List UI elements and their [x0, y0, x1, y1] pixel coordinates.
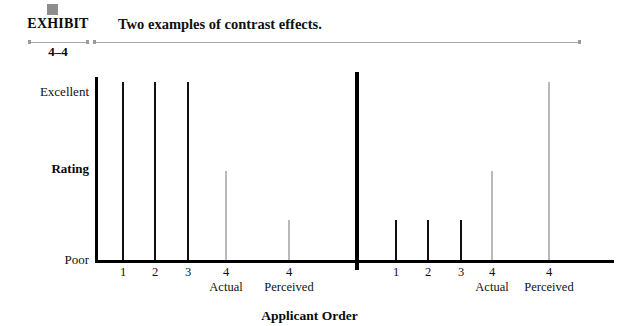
y-tick-poor-label: Poor [64, 252, 89, 267]
y-tick-poor: Poor [0, 250, 89, 268]
y-axis-title: Rating [0, 161, 89, 177]
xtick-right-4-perceived-number: 4 [519, 265, 579, 280]
bar-left-4-perceived [288, 220, 290, 260]
bar-right-4-actual [491, 171, 493, 260]
xtick-left-4-perceived: 4 Perceived [259, 265, 319, 295]
xtick-right-4-actual-number: 4 [462, 265, 522, 280]
exhibit-number: 4–4 [27, 44, 89, 60]
xtick-left-4-actual: 4 Actual [196, 265, 256, 295]
xtick-right-4-perceived-sub: Perceived [519, 280, 579, 295]
bar-left-1 [122, 82, 124, 260]
header-rule-left [30, 42, 88, 43]
rule-cap-left-end [86, 40, 89, 44]
bar-left-4-actual [225, 171, 227, 260]
bar-left-2 [154, 82, 156, 260]
bar-left-3 [187, 82, 189, 260]
bar-right-2 [427, 220, 429, 260]
rule-cap-right-start [93, 40, 96, 44]
xtick-right-4-actual: 4 Actual [462, 265, 522, 295]
rule-cap-left-start [28, 40, 31, 44]
panel-divider-line [355, 72, 359, 270]
xtick-left-4-perceived-sub: Perceived [259, 280, 319, 295]
exhibit-figure: EXHIBIT 4–4 Two examples of contrast eff… [0, 0, 619, 326]
xtick-right-4-perceived: 4 Perceived [519, 265, 579, 295]
y-axis-line [95, 77, 98, 263]
bar-right-1 [395, 220, 397, 260]
y-tick-excellent-label: Excellent [40, 84, 89, 99]
exhibit-title: Two examples of contrast effects. [118, 16, 322, 33]
xtick-right-4-actual-sub: Actual [462, 280, 522, 295]
xtick-left-4-perceived-number: 4 [259, 265, 319, 280]
header-rule-right [95, 42, 580, 43]
exhibit-marker-icon [47, 4, 58, 15]
y-tick-excellent: Excellent [0, 82, 89, 100]
exhibit-label: EXHIBIT [27, 16, 89, 32]
rule-cap-right-end [578, 40, 581, 44]
bar-right-4-perceived [548, 82, 550, 260]
xtick-left-4-actual-sub: Actual [196, 280, 256, 295]
bar-right-3 [460, 220, 462, 260]
xtick-left-4-actual-number: 4 [196, 265, 256, 280]
x-axis-title: Applicant Order [0, 308, 619, 324]
